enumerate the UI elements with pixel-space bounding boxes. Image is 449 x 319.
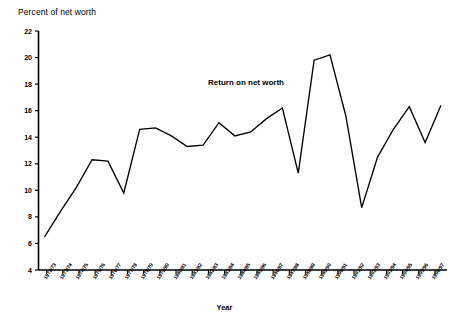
- y-axis-tick-label: 12: [14, 160, 32, 167]
- chart-container: Percent of net worth 46810121416182022 1…: [0, 0, 449, 319]
- y-axis-tick-label: 4: [14, 267, 32, 274]
- axes: [35, 31, 447, 274]
- y-axis-tick-label: 22: [14, 28, 32, 35]
- y-axis-tick-label: 18: [14, 81, 32, 88]
- x-axis-title: Year: [0, 303, 449, 312]
- y-axis-tick-label: 8: [14, 213, 32, 220]
- series-annotation-label: Return on net worth: [208, 78, 284, 87]
- y-axis-tick-label: 16: [14, 107, 32, 114]
- y-axis-tick-label: 6: [14, 240, 32, 247]
- y-axis-tick-label: 20: [14, 54, 32, 61]
- y-axis-tick-label: 10: [14, 187, 32, 194]
- y-axis-tick-label: 14: [14, 134, 32, 141]
